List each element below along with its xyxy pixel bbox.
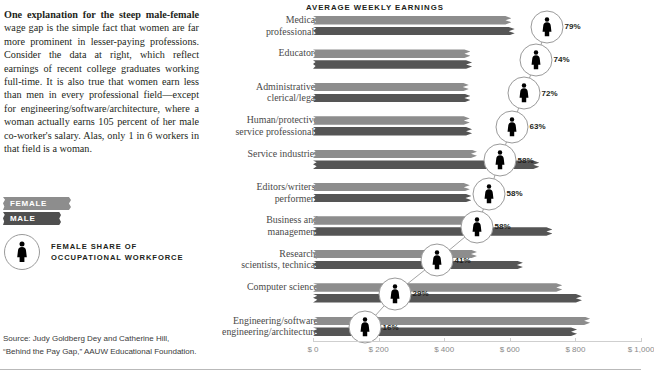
bar-male <box>313 194 471 203</box>
category-label: Research,scientists, technical <box>193 248 318 271</box>
x-axis-tick <box>379 338 380 342</box>
bar-female <box>313 116 470 125</box>
bar-group <box>313 49 641 71</box>
x-axis-tick <box>641 338 642 342</box>
female-share-legend: FEMALE SHARE OF OCCUPATIONAL WORKFORCE <box>4 234 183 270</box>
female-share-line1: FEMALE SHARE OF <box>51 241 183 252</box>
chart-row: Service industries <box>196 148 641 181</box>
legend-label-male: MALE <box>3 214 35 223</box>
bar-group <box>313 150 641 172</box>
x-axis-tick <box>444 338 445 342</box>
bar-female <box>313 250 477 259</box>
bar-male <box>313 327 577 336</box>
series-legend: FEMALE MALE <box>3 197 123 227</box>
bar-group <box>313 16 641 38</box>
source-credit: Source: Judy Goldberg Dey and Catherine … <box>3 333 218 358</box>
bar-male <box>313 60 472 69</box>
chart-row: Business andmanagement <box>196 214 641 247</box>
category-label: Engineering/softwareengineering/architec… <box>193 315 318 338</box>
female-figure-icon <box>4 234 40 270</box>
bar-group <box>313 216 641 238</box>
female-share-line2: OCCUPATIONAL WORKFORCE <box>51 252 183 263</box>
category-label: Computer science <box>193 281 318 293</box>
category-label: Educators <box>193 47 318 59</box>
article-column: One explanation for the steep male-femal… <box>4 8 199 155</box>
chart-row: Human/protectiveservice professionals <box>196 114 641 147</box>
legend-item-female: FEMALE <box>3 197 123 210</box>
bar-group <box>313 283 641 305</box>
x-axis-tick <box>510 338 511 342</box>
x-axis-label: $ 200 <box>369 345 389 354</box>
bar-female <box>313 317 590 326</box>
bar-female <box>313 283 562 292</box>
category-label: Administrative/clerical/legal <box>193 81 318 104</box>
chart-row: Educators <box>196 47 641 80</box>
bar-female <box>313 150 477 159</box>
x-axis-tick <box>575 338 576 342</box>
x-axis-tick <box>313 338 314 342</box>
bar-female <box>313 183 470 192</box>
bar-male <box>313 294 582 303</box>
category-label: Editors/writers/performers <box>193 181 318 204</box>
bar-female <box>313 16 511 25</box>
chart-row: Administrative/clerical/legal <box>196 81 641 114</box>
bar-male <box>313 261 523 270</box>
source-line-2: “Behind the Pay Gap,” AAUW Educational F… <box>3 346 218 359</box>
bar-female <box>313 216 471 225</box>
chart-row: Engineering/softwareengineering/architec… <box>196 315 641 348</box>
category-label: Service industries <box>193 148 318 160</box>
bar-male <box>313 160 539 169</box>
chart-title: AVERAGE WEEKLY EARNINGS <box>306 3 444 12</box>
bar-group <box>313 250 641 272</box>
chart: AVERAGE WEEKLY EARNINGS Medicalprofessio… <box>196 0 641 377</box>
chart-row: Medicalprofessionals <box>196 14 641 47</box>
bar-male <box>313 227 552 236</box>
x-axis-line <box>313 341 641 342</box>
lede-paragraph: One explanation for the steep male-femal… <box>4 8 199 155</box>
bar-female <box>313 49 470 58</box>
bar-female <box>313 83 469 92</box>
category-label: Business andmanagement <box>193 214 318 237</box>
chart-rows: MedicalprofessionalsEducatorsAdministrat… <box>196 14 641 348</box>
bottom-rule <box>0 369 641 370</box>
lede-body: wage gap is the simple fact that women a… <box>4 22 199 154</box>
bar-group <box>313 317 641 339</box>
bar-male <box>313 94 470 103</box>
chart-row: Editors/writers/performers <box>196 181 641 214</box>
bar-group <box>313 183 641 205</box>
x-axis-label: $ 400 <box>434 345 454 354</box>
x-axis-label: $ 1,000 <box>628 345 654 354</box>
legend-label-female: FEMALE <box>3 199 47 208</box>
bar-group <box>313 116 641 138</box>
bar-male <box>313 27 515 36</box>
source-line-1: Source: Judy Goldberg Dey and Catherine … <box>3 333 218 346</box>
x-axis-label: $ 0 <box>307 345 318 354</box>
chart-row: Research,scientists, technical <box>196 248 641 281</box>
bar-group <box>313 83 641 105</box>
category-label: Human/protectiveservice professionals <box>193 114 318 137</box>
legend-item-male: MALE <box>3 212 123 225</box>
category-label: Medicalprofessionals <box>193 14 318 37</box>
lede-bold-intro: One explanation for the steep male-femal… <box>4 9 199 20</box>
x-axis-label: $ 600 <box>500 345 520 354</box>
chart-row: Computer science <box>196 281 641 314</box>
x-axis-label: $ 800 <box>565 345 585 354</box>
female-share-legend-text: FEMALE SHARE OF OCCUPATIONAL WORKFORCE <box>51 241 183 263</box>
bar-male <box>313 127 472 136</box>
